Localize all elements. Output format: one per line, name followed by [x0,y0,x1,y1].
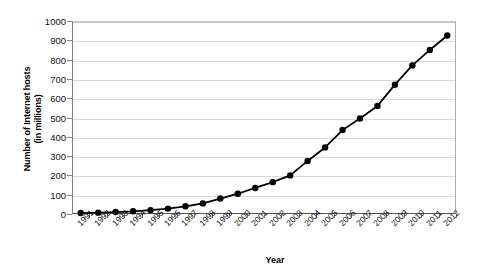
data-point-marker [200,200,206,206]
data-point-marker [392,81,398,87]
data-point-marker [235,191,241,197]
data-point-marker [304,158,310,164]
data-point-marker [357,115,363,121]
data-point-marker [322,144,328,150]
data-point-marker [374,103,380,109]
data-point-marker [182,203,188,209]
data-point-marker [95,209,101,215]
data-point-marker [270,179,276,185]
data-point-marker [409,62,415,68]
data-series-line [0,0,490,274]
data-point-marker [339,127,345,133]
data-point-marker [217,195,223,201]
internet-hosts-line-chart: Number of Internet hosts (in millions) 0… [0,0,490,274]
data-point-marker [130,208,136,214]
series-path [81,35,448,213]
data-point-marker [427,47,433,53]
data-point-marker [165,205,171,211]
data-point-marker [112,209,118,215]
data-point-marker [78,210,84,216]
data-point-marker [252,185,258,191]
x-axis-title: Year [0,255,490,265]
data-point-marker [444,32,450,38]
data-point-marker [147,207,153,213]
data-point-marker [287,172,293,178]
